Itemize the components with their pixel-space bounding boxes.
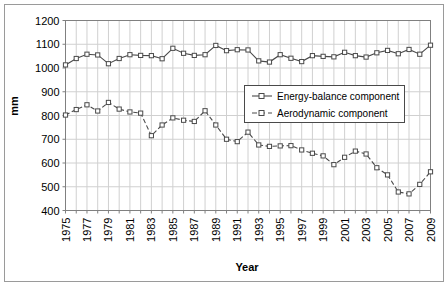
x-tick-label: 1997: [296, 218, 308, 242]
data-point-marker: [214, 43, 218, 47]
x-axis-title: Year: [235, 261, 259, 273]
data-point-marker: [181, 118, 185, 122]
data-point-marker: [106, 62, 110, 66]
data-point-marker: [117, 107, 121, 111]
chart-canvas: 400500600700800900100011001200 197519771…: [0, 0, 448, 286]
data-point-marker: [85, 103, 89, 107]
data-point-marker: [267, 60, 271, 64]
x-tick-label: 1979: [102, 218, 114, 242]
legend-swatch-marker: [259, 94, 264, 99]
x-tick-label: 1987: [188, 218, 200, 242]
y-tick-label: 800: [41, 110, 59, 122]
data-point-marker: [407, 192, 411, 196]
x-tick-label: 1975: [60, 218, 72, 242]
data-point-marker: [171, 116, 175, 120]
data-point-marker: [214, 123, 218, 127]
data-point-marker: [257, 59, 261, 63]
x-tick-label: 1985: [167, 218, 179, 242]
data-point-marker: [353, 54, 357, 58]
data-point-marker: [267, 144, 271, 148]
data-point-marker: [224, 49, 228, 53]
x-tick-label: 1999: [317, 218, 329, 242]
data-point-marker: [224, 137, 228, 141]
data-point-marker: [139, 111, 143, 115]
x-tick-label: 1977: [81, 218, 93, 242]
y-axis-title: mm: [8, 96, 20, 116]
data-point-marker: [74, 107, 78, 111]
data-point-marker: [407, 47, 411, 51]
data-point-marker: [375, 166, 379, 170]
data-point-marker: [192, 119, 196, 123]
data-point-marker: [310, 54, 314, 58]
data-point-marker: [203, 109, 207, 113]
data-point-marker: [375, 51, 379, 55]
data-point-marker: [321, 54, 325, 58]
data-point-marker: [300, 148, 304, 152]
data-point-marker: [364, 152, 368, 156]
data-point-marker: [300, 59, 304, 63]
data-point-marker: [85, 52, 89, 56]
x-tick-label: 2003: [360, 218, 372, 242]
data-point-marker: [203, 53, 207, 57]
legend-label-aerodynamic: Aerodynamic component: [277, 108, 388, 119]
data-point-marker: [160, 57, 164, 61]
x-tick-label: 2007: [403, 218, 415, 242]
data-point-marker: [246, 48, 250, 52]
data-point-marker: [181, 51, 185, 55]
data-point-marker: [396, 52, 400, 56]
data-point-marker: [332, 55, 336, 59]
data-point-marker: [364, 55, 368, 59]
x-tick-label: 1993: [253, 218, 265, 242]
x-tick-label: 1995: [274, 218, 286, 242]
data-point-marker: [235, 48, 239, 52]
data-point-marker: [428, 43, 432, 47]
data-point-marker: [63, 113, 67, 117]
data-point-marker: [192, 53, 196, 57]
y-tick-label: 600: [41, 157, 59, 169]
legend-swatch-marker: [259, 111, 264, 116]
x-tick-label: 2005: [382, 218, 394, 242]
data-point-marker: [353, 149, 357, 153]
data-point-marker: [128, 53, 132, 57]
data-point-marker: [63, 63, 67, 67]
x-tick-label: 1989: [210, 218, 222, 242]
x-tick-label: 1981: [124, 218, 136, 242]
data-point-marker: [289, 144, 293, 148]
chart-legend[interactable]: Energy-balance component Aerodynamic com…: [245, 86, 405, 123]
data-point-marker: [428, 170, 432, 174]
data-point-marker: [235, 140, 239, 144]
data-point-marker: [74, 56, 78, 60]
data-point-marker: [246, 130, 250, 134]
data-point-marker: [310, 151, 314, 155]
x-axis-title-text: Year: [235, 261, 259, 273]
y-tick-label: 500: [41, 181, 59, 193]
data-point-marker: [278, 53, 282, 57]
legend-label-energy-balance: Energy-balance component: [277, 91, 400, 102]
x-tick-label: 1991: [231, 218, 243, 242]
chart-figure: 400500600700800900100011001200 197519771…: [0, 0, 448, 286]
y-tick-label: 400: [41, 205, 59, 217]
data-point-marker: [332, 163, 336, 167]
data-point-marker: [278, 144, 282, 148]
data-point-marker: [96, 53, 100, 57]
data-point-marker: [171, 46, 175, 50]
data-point-marker: [321, 154, 325, 158]
data-point-marker: [343, 155, 347, 159]
data-point-marker: [418, 52, 422, 56]
y-tick-label: 1200: [35, 15, 59, 27]
data-point-marker: [149, 54, 153, 58]
data-point-marker: [128, 110, 132, 114]
x-tick-label: 2009: [425, 218, 437, 242]
data-point-marker: [289, 56, 293, 60]
x-tick-label: 1983: [145, 218, 157, 242]
y-axis-title-text: mm: [8, 96, 20, 116]
data-point-marker: [343, 50, 347, 54]
data-point-marker: [149, 134, 153, 138]
y-tick-label: 900: [41, 86, 59, 98]
data-point-marker: [396, 190, 400, 194]
data-point-marker: [96, 109, 100, 113]
data-point-marker: [106, 100, 110, 104]
data-point-marker: [117, 56, 121, 60]
x-tick-label: 2001: [339, 218, 351, 242]
data-point-marker: [257, 143, 261, 147]
